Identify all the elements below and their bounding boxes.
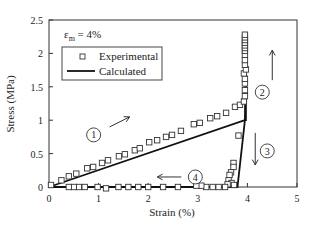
y-tick-label: 0.5 <box>31 149 44 160</box>
experimental-point <box>95 184 100 189</box>
x-tick-label: 4 <box>245 193 250 204</box>
experimental-point <box>163 134 168 139</box>
experimental-point <box>160 184 165 189</box>
experimental-point <box>242 32 247 37</box>
y-tick-label: 1.5 <box>31 82 44 93</box>
x-tick-label: 1 <box>96 193 101 204</box>
experimental-point <box>231 182 236 187</box>
x-tick-label: 2 <box>146 193 151 204</box>
experimental-point <box>178 128 183 133</box>
legend: Experimental Calculated <box>62 47 162 80</box>
experimental-point <box>48 182 53 187</box>
experimental-point <box>210 184 215 189</box>
experimental-point <box>103 186 108 191</box>
y-tick-label: 1 <box>38 115 43 126</box>
experimental-point <box>137 146 142 151</box>
y-tick-label: 2 <box>38 48 43 59</box>
experimental-point <box>90 164 95 169</box>
stage-number: 4 <box>193 172 198 183</box>
experimental-point <box>66 174 71 179</box>
strain-max-annotation: εm = 4% <box>64 28 101 43</box>
experimental-point <box>236 133 241 138</box>
x-tick-label: 5 <box>295 193 300 204</box>
x-tick-label: 3 <box>195 193 200 204</box>
stage-number: 3 <box>265 146 270 157</box>
experimental-point <box>105 158 110 163</box>
legend-calculated: Calculated <box>99 65 147 77</box>
experimental-point <box>214 113 219 118</box>
experimental-point <box>216 184 221 189</box>
experimental-point <box>227 172 232 177</box>
experimental-point <box>136 184 141 189</box>
x-tick-label: 0 <box>47 193 52 204</box>
stage-number: 2 <box>260 87 265 98</box>
experimental-point <box>59 178 64 183</box>
experimental-point <box>208 115 213 120</box>
experimental-point <box>116 184 121 189</box>
experimental-point <box>126 184 131 189</box>
experimental-point <box>242 76 247 81</box>
experimental-point <box>74 171 79 176</box>
legend-experimental: Experimental <box>99 50 158 62</box>
experimental-point <box>99 160 104 165</box>
experimental-point <box>191 122 196 127</box>
chart-svg: 00.511.522.5 012345 Strain (%) Stress (M… <box>0 0 315 230</box>
experimental-point <box>116 154 121 159</box>
experimental-point <box>242 87 247 92</box>
axis-ticks <box>49 20 297 187</box>
experimental-point <box>169 132 174 137</box>
plot-frame <box>49 20 297 187</box>
x-axis-label: Strain (%) <box>149 206 195 219</box>
experimental-point <box>242 57 247 62</box>
experimental-point <box>231 164 236 169</box>
experimental-point <box>122 152 127 157</box>
experimental-point <box>154 138 159 143</box>
stage-number: 1 <box>91 129 96 140</box>
experimental-point <box>66 184 71 189</box>
experimental-point <box>222 184 227 189</box>
experimental-point <box>197 120 202 125</box>
experimental-point <box>175 184 180 189</box>
x-tick-labels: 012345 <box>47 193 300 204</box>
y-tick-label: 2.5 <box>31 15 44 26</box>
y-tick-label: 0 <box>38 182 43 193</box>
stress-strain-chart: 00.511.522.5 012345 Strain (%) Stress (M… <box>0 0 315 230</box>
experimental-point <box>223 110 228 115</box>
y-tick-labels: 00.511.522.5 <box>31 15 44 193</box>
y-axis-label: Stress (MPa) <box>4 75 17 132</box>
experimental-point <box>84 166 89 171</box>
experimental-point <box>241 99 246 104</box>
experimental-point <box>242 93 247 98</box>
experimental-point <box>82 184 87 189</box>
experimental-point <box>146 140 151 145</box>
experimental-point <box>146 184 151 189</box>
